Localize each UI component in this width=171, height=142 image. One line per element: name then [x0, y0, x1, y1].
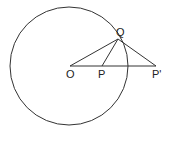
label-o: O: [66, 68, 75, 80]
label-p: P: [98, 68, 105, 80]
segment-q-p-prime: [118, 39, 156, 66]
segment-o-q: [70, 39, 118, 66]
geometry-diagram: Q O P P': [0, 0, 171, 142]
label-p-prime: P': [152, 68, 161, 80]
label-q: Q: [116, 26, 125, 38]
